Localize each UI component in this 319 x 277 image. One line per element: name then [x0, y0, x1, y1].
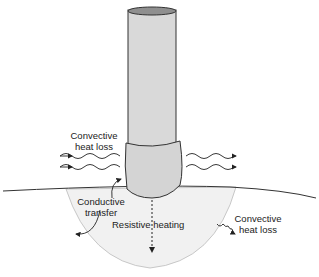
label-line: heat loss [230, 224, 286, 235]
convective-arrows-left [60, 154, 120, 170]
label-line: transfer [76, 207, 126, 218]
label-conductive-transfer: Conductive transfer [76, 196, 126, 218]
label-convective-heat-loss-right: Convective heat loss [230, 213, 286, 235]
label-convective-heat-loss-left: Convective heat loss [66, 130, 122, 152]
label-line: heat loss [66, 141, 122, 152]
electrode-shaft [128, 7, 176, 148]
electrode-tip [125, 141, 182, 198]
diagram-canvas [0, 0, 319, 277]
convective-arrows-right [186, 154, 236, 170]
label-line: Convective [66, 130, 122, 141]
label-resistive-heating: Resistive heating [112, 219, 184, 230]
label-line: Conductive [76, 196, 126, 207]
label-line: Convective [230, 213, 286, 224]
